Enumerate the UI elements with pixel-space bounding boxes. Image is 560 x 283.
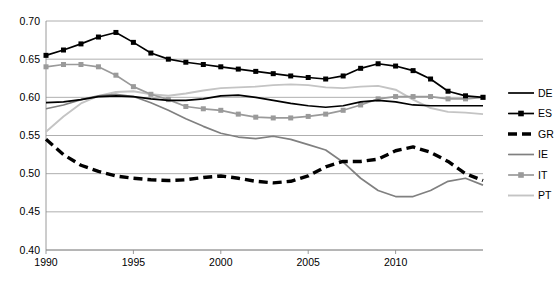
series-marker-es [446, 89, 451, 94]
y-axis-tick-label: 0.70 [20, 15, 41, 27]
series-marker-es [306, 75, 311, 80]
chart-container: 0.700.650.600.550.500.450.40199019952000… [0, 0, 560, 283]
legend-label-gr: GR [538, 128, 554, 140]
series-marker-es [218, 64, 223, 69]
series-marker-es [96, 35, 101, 40]
series-marker-es [183, 60, 188, 65]
series-marker-es [131, 40, 136, 45]
series-marker-es [113, 30, 118, 35]
series-marker-it [61, 62, 66, 67]
series-marker-it [113, 73, 118, 78]
series-line-es [46, 32, 483, 97]
series-line-gr [46, 139, 483, 183]
series-it [44, 62, 486, 120]
series-marker-it [96, 64, 101, 69]
series-marker-es [166, 57, 171, 62]
series-marker-it [236, 112, 241, 117]
series-marker-es [393, 64, 398, 69]
series-marker-es [236, 67, 241, 72]
series-marker-it [428, 94, 433, 99]
series-marker-it [446, 96, 451, 101]
series-marker-es [78, 41, 83, 46]
legend-label-ie: IE [538, 148, 548, 160]
series-marker-es [481, 95, 486, 100]
series-marker-es [253, 69, 258, 74]
series-marker-it [323, 112, 328, 117]
legend-item-es[interactable]: ES [508, 107, 552, 119]
y-axis-tick-label: 0.60 [20, 91, 41, 103]
series-line-pt [46, 84, 483, 131]
y-axis-tick-label: 0.55 [20, 129, 41, 141]
series-marker-it [78, 62, 83, 67]
series-marker-it [148, 92, 153, 97]
series-marker-it [253, 115, 258, 120]
y-axis-tick-label: 0.40 [20, 244, 41, 256]
series-marker-it [44, 64, 49, 69]
legend-item-it[interactable]: IT [508, 169, 548, 181]
series-marker-es [44, 53, 49, 58]
series-pt [46, 84, 483, 131]
series-marker-es [341, 73, 346, 78]
x-axis-tick-label: 2005 [297, 256, 321, 268]
series-marker-es [411, 68, 416, 73]
x-axis-tick-label: 2000 [209, 256, 233, 268]
x-axis-tick-label: 2010 [384, 256, 408, 268]
series-marker-es [358, 66, 363, 71]
x-axis-tick-label: 1990 [34, 256, 58, 268]
series-marker-it [131, 84, 136, 89]
series-gr [46, 139, 483, 183]
series-marker-it [306, 114, 311, 119]
y-axis-tick-label: 0.45 [20, 205, 41, 217]
series-marker-it [271, 115, 276, 120]
series-marker-it [218, 108, 223, 113]
series-marker-it [341, 108, 346, 113]
legend-marker-es [518, 111, 524, 117]
series-marker-es [148, 51, 153, 56]
legend-label-es: ES [538, 107, 552, 119]
legend-item-pt[interactable]: PT [508, 189, 552, 201]
y-axis-tick-label: 0.50 [20, 167, 41, 179]
legend-item-ie[interactable]: IE [508, 148, 548, 160]
series-marker-es [323, 77, 328, 82]
series-marker-es [271, 71, 276, 76]
y-axis-tick-label: 0.65 [20, 53, 41, 65]
legend-item-de[interactable]: DE [508, 87, 553, 99]
series-es [44, 30, 486, 100]
legend-marker-it [518, 172, 524, 178]
series-marker-es [288, 73, 293, 78]
series-marker-it [201, 106, 206, 111]
series-marker-it [393, 94, 398, 99]
legend-label-it: IT [538, 169, 548, 181]
x-axis-tick-label: 1995 [122, 256, 146, 268]
legend-item-gr[interactable]: GR [508, 128, 554, 140]
series-marker-es [61, 48, 66, 53]
series-marker-es [428, 77, 433, 82]
legend-label-de: DE [538, 87, 553, 99]
line-chart: 0.700.650.600.550.500.450.40199019952000… [0, 0, 560, 283]
series-marker-it [183, 104, 188, 109]
series-marker-es [463, 93, 468, 98]
series-marker-es [376, 61, 381, 66]
series-marker-it [288, 115, 293, 120]
series-marker-it [358, 102, 363, 107]
series-marker-es [201, 62, 206, 67]
legend-label-pt: PT [538, 189, 552, 201]
series-marker-it [411, 94, 416, 99]
